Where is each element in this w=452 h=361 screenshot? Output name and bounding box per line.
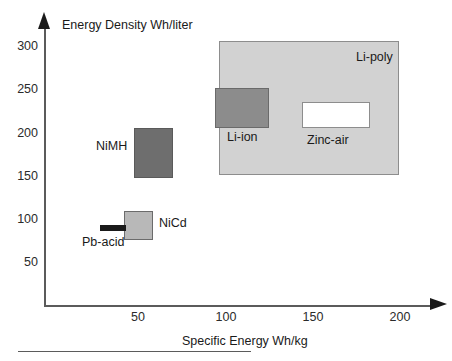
y-tick-50: 50: [0, 256, 38, 269]
y-tick-label: 50: [4, 256, 38, 269]
energy-density-chart: Energy Density Wh/liter Specific Energy …: [0, 0, 452, 361]
x-tick-150: 150: [291, 311, 335, 324]
y-axis-title: Energy Density Wh/liter: [62, 18, 193, 32]
y-tick-300: 300: [0, 40, 38, 53]
series-label-nicd: NiCd: [159, 217, 187, 230]
x-tick-100: 100: [204, 311, 248, 324]
y-tick-250: 250: [0, 83, 38, 96]
series-label-pb-acid: Pb-acid: [82, 236, 124, 249]
y-axis-line: [44, 28, 46, 307]
data-box-zinc-air: [302, 102, 370, 128]
y-tick-100: 100: [0, 213, 38, 226]
y-tick-label: 300: [4, 40, 38, 53]
y-tick-label: 200: [4, 127, 38, 140]
x-axis-title: Specific Energy Wh/kg: [182, 334, 308, 348]
y-axis-arrow-icon: [38, 12, 50, 29]
series-label-li-ion: Li-ion: [227, 131, 258, 144]
data-box-pb-acid: [100, 225, 126, 231]
y-tick-label: 150: [4, 170, 38, 183]
x-tick-50: 50: [116, 311, 160, 324]
y-tick-label: 250: [4, 83, 38, 96]
x-axis-line: [44, 305, 432, 307]
data-box-nicd: [124, 211, 153, 240]
x-axis-arrow-icon: [430, 298, 447, 310]
data-box-nimh: [134, 128, 173, 178]
data-box-li-ion: [215, 88, 269, 128]
y-tick-label: 100: [4, 213, 38, 226]
y-tick-150: 150: [0, 170, 38, 183]
series-label-li-poly: Li-poly: [356, 51, 393, 64]
series-label-nimh: NiMH: [96, 140, 127, 153]
series-label-zinc-air: Zinc-air: [307, 134, 349, 147]
footer-divider: [18, 351, 251, 352]
x-tick-200: 200: [378, 311, 422, 324]
y-tick-200: 200: [0, 127, 38, 140]
